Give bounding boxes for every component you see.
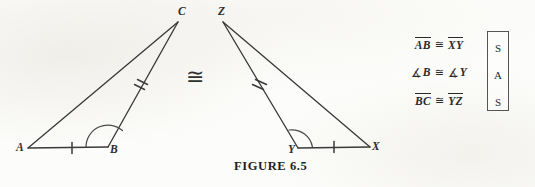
sas-letter: S: [488, 43, 508, 54]
congruence-symbol: ≅: [186, 66, 204, 88]
angle-icon: ∡: [411, 66, 422, 80]
vertex-label-A: A: [16, 142, 24, 154]
figure-container: A B C Z Y X ≅ FIGURE 6.5 AB ≅ XY ∡ B ≅ ∡…: [0, 0, 535, 187]
statement-right-term: XY: [448, 37, 463, 51]
congruence-relation-icon: ≅: [435, 94, 444, 107]
statement-left-term: BC: [415, 93, 431, 107]
segment-ZY: [223, 22, 298, 148]
segment-AC: [28, 22, 178, 148]
congruence-relation-icon: ≅: [435, 66, 444, 79]
statement-left-term: B: [423, 66, 431, 78]
sas-letter: S: [488, 97, 508, 108]
figure-caption: FIGURE 6.5: [234, 159, 307, 174]
vertex-label-Y: Y: [288, 144, 295, 156]
statement-row: ∡ B ≅ ∡ Y: [398, 58, 480, 86]
statement-row: BC ≅ YZ: [398, 86, 480, 114]
triangle-XYZ: [223, 22, 370, 153]
statement-left-term: AB: [415, 37, 431, 51]
statement-row: AB ≅ XY: [398, 30, 480, 58]
sas-letter: A: [488, 70, 508, 81]
vertex-label-B: B: [110, 144, 118, 156]
vertex-label-X: X: [372, 141, 380, 153]
vertex-label-Z: Z: [218, 6, 225, 18]
angle-icon: ∡: [448, 66, 459, 80]
statement-right-term: YZ: [448, 93, 463, 107]
segment-AB: [28, 147, 108, 148]
congruence-relation-icon: ≅: [435, 38, 444, 51]
vertex-label-C: C: [178, 6, 186, 18]
segment-ZX: [223, 22, 370, 147]
triangle-ABC: [28, 22, 178, 154]
sas-code-box: S A S: [487, 31, 509, 111]
statement-right-term: Y: [460, 66, 467, 78]
